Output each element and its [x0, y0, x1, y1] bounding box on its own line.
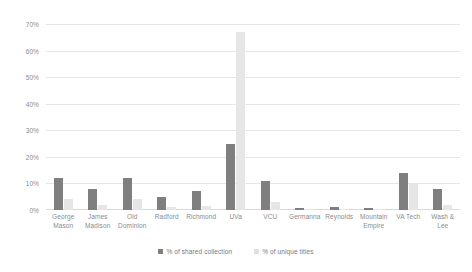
bar-group [322, 24, 357, 210]
bar[interactable] [202, 206, 211, 210]
legend-label: % of unique titles [262, 248, 313, 255]
bar-group [46, 24, 81, 210]
bar[interactable] [236, 32, 245, 210]
legend-swatch-icon [158, 249, 163, 254]
y-axis: 70%60%50%40%30%20%10%0% [0, 0, 46, 211]
bar[interactable] [88, 189, 97, 210]
x-axis-tick-label: Reynolds [322, 212, 357, 230]
bar[interactable] [167, 207, 176, 210]
bar[interactable] [261, 181, 270, 210]
bar-group [184, 24, 219, 210]
y-axis-tick-label: 40% [26, 100, 39, 107]
bar[interactable] [374, 209, 383, 210]
bar[interactable] [443, 205, 452, 210]
x-axis-tick-label: Richmond [184, 212, 219, 230]
x-axis-tick-label: Radford [150, 212, 185, 230]
y-axis-tick-label: 30% [26, 127, 39, 134]
y-axis-tick-label: 70% [26, 21, 39, 28]
x-axis-tick-label: Germanna [288, 212, 323, 230]
bar-group [288, 24, 323, 210]
legend-label: % of shared collection [166, 248, 232, 255]
y-axis-tick-label: 50% [26, 74, 39, 81]
bar[interactable] [192, 191, 201, 210]
bar-group [115, 24, 150, 210]
x-axis-tick-label: VA Tech [391, 212, 426, 230]
legend-item[interactable]: % of shared collection [158, 248, 232, 255]
chart-legend: % of shared collection% of unique titles [0, 248, 472, 255]
x-axis-labels: George MasonJames MadisonOld DominionRad… [46, 212, 460, 230]
bar-group [150, 24, 185, 210]
x-axis-tick-label: George Mason [46, 212, 81, 230]
bar[interactable] [295, 208, 304, 210]
bar[interactable] [133, 199, 142, 210]
legend-swatch-icon [254, 249, 259, 254]
bar[interactable] [54, 178, 63, 210]
legend-item[interactable]: % of unique titles [254, 248, 313, 255]
bar[interactable] [433, 189, 442, 210]
y-axis-tick-label: 0% [29, 207, 39, 214]
x-axis-tick-label: Wash & Lee [426, 212, 461, 230]
bar[interactable] [364, 208, 373, 210]
x-axis-tick-label: James Madison [81, 212, 116, 230]
bar-chart: 70%60%50%40%30%20%10%0% George MasonJame… [0, 0, 472, 272]
x-axis-tick-label: VCU [253, 212, 288, 230]
y-axis-tick-label: 20% [26, 153, 39, 160]
bar-group [219, 24, 254, 210]
bar[interactable] [399, 173, 408, 210]
bar-groups [46, 24, 460, 210]
bar[interactable] [157, 197, 166, 210]
y-axis-tick-label: 10% [26, 180, 39, 187]
bar[interactable] [409, 183, 418, 210]
y-axis-tick-label: 60% [26, 47, 39, 54]
bar-group [391, 24, 426, 210]
x-axis-tick-label: Mountain Empire [357, 212, 392, 230]
bar[interactable] [98, 205, 107, 210]
x-axis-tick-label: UVa [219, 212, 254, 230]
bar-group [357, 24, 392, 210]
bar[interactable] [123, 178, 132, 210]
bar[interactable] [340, 209, 349, 210]
bar-group [81, 24, 116, 210]
x-axis-tick-label: Old Dominion [115, 212, 150, 230]
bar[interactable] [330, 207, 339, 210]
bar-group [426, 24, 461, 210]
bar[interactable] [226, 144, 235, 210]
bar[interactable] [305, 209, 314, 210]
bar[interactable] [64, 199, 73, 210]
bar[interactable] [271, 202, 280, 210]
bar-group [253, 24, 288, 210]
